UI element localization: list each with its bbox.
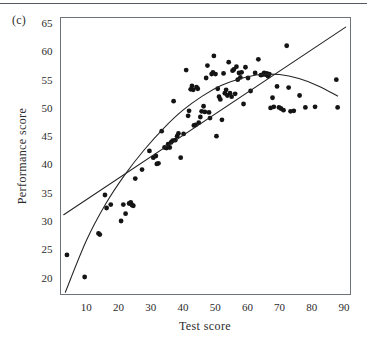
data-point: [303, 105, 308, 110]
data-point: [104, 206, 109, 211]
data-point: [220, 117, 225, 122]
x-tick-label: 10: [81, 301, 93, 313]
x-tick-label: 30: [145, 301, 157, 313]
x-tick-label: 80: [306, 301, 318, 313]
y-tick-label: 55: [42, 74, 54, 86]
data-point: [214, 134, 219, 139]
data-point: [313, 104, 318, 109]
data-point: [211, 54, 216, 59]
y-axis-title: Performance score: [15, 108, 29, 204]
data-point: [140, 167, 145, 172]
y-tick-label: 35: [42, 187, 54, 199]
data-point: [178, 155, 183, 160]
data-point: [171, 99, 176, 104]
y-tick-label: 25: [42, 243, 54, 255]
data-point: [224, 87, 229, 92]
y-tick-label: 30: [42, 215, 54, 227]
data-point: [186, 113, 191, 118]
data-point: [291, 108, 296, 113]
x-tick-label: 90: [339, 301, 351, 313]
y-tick-label: 60: [42, 45, 54, 57]
x-axis-title: Test score: [179, 319, 231, 333]
x-tick-label: 70: [274, 301, 286, 313]
data-point: [123, 211, 128, 216]
data-point: [97, 232, 102, 237]
y-tick-label: 65: [42, 17, 54, 29]
data-point: [187, 108, 192, 113]
data-point: [202, 110, 207, 115]
scatter-plot: 20253035404550556065 102030405060708090 …: [0, 0, 367, 346]
data-point: [286, 85, 291, 90]
figure-container: (c) 20253035404550556065 102030405060708…: [0, 0, 367, 346]
data-point: [133, 176, 138, 181]
y-axis-tick-labels: 20253035404550556065: [42, 17, 54, 283]
data-point: [234, 64, 239, 69]
data-point: [213, 72, 218, 77]
data-point: [184, 68, 189, 73]
data-point: [243, 65, 248, 70]
data-point: [198, 115, 203, 120]
y-tick-label: 45: [42, 130, 54, 142]
x-tick-label: 60: [242, 301, 254, 313]
x-tick-label: 40: [177, 301, 189, 313]
plot-frame: [61, 18, 351, 295]
data-point: [335, 105, 340, 110]
data-point: [239, 70, 244, 75]
data-point: [201, 104, 206, 109]
data-point: [147, 149, 152, 154]
data-point: [121, 202, 126, 207]
x-tick-label: 50: [210, 301, 222, 313]
y-tick-label: 40: [42, 158, 54, 170]
data-point: [221, 71, 226, 76]
data-point: [176, 131, 181, 136]
data-point: [275, 84, 280, 89]
data-point: [256, 57, 261, 62]
data-point: [233, 91, 238, 96]
data-point: [271, 104, 276, 109]
data-point: [281, 108, 286, 113]
linear-fit-line: [64, 27, 346, 215]
data-point: [334, 77, 339, 82]
data-point: [65, 253, 70, 258]
data-point: [195, 86, 200, 91]
data-point: [241, 102, 246, 107]
data-point: [119, 219, 124, 224]
y-tick-label: 20: [42, 272, 54, 284]
data-point: [82, 275, 87, 280]
data-point: [297, 93, 302, 98]
x-tick-label: 20: [113, 301, 125, 313]
x-axis-tick-labels: 102030405060708090: [81, 301, 350, 313]
data-point: [204, 76, 209, 81]
data-point: [205, 63, 210, 68]
data-point: [218, 97, 223, 102]
data-point: [226, 60, 231, 65]
data-point: [207, 110, 212, 115]
data-point: [131, 203, 136, 208]
y-tick-label: 50: [42, 102, 54, 114]
data-point: [284, 43, 289, 48]
data-point: [108, 202, 113, 207]
data-point: [270, 95, 275, 100]
data-point: [156, 161, 161, 166]
data-point: [103, 193, 108, 198]
